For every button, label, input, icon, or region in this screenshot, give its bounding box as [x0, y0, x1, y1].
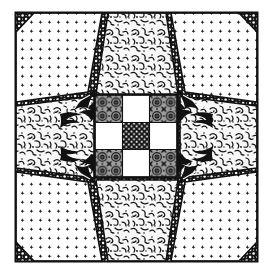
checker-cell-r0c0: [96, 96, 123, 123]
quilt-block-illustration: [0, 0, 270, 271]
artwork-canvas: Symmetric Quilt Block Pattern: [0, 0, 270, 271]
checker-cell-r0c1: [123, 96, 150, 123]
pentagon-bottom-left: [16, 172, 102, 261]
checker-cell-r1c0: [96, 123, 123, 150]
center-checkerboard: [95, 95, 177, 177]
checker-cell-r2c0: [96, 150, 123, 177]
trapezoid-left: [16, 96, 94, 178]
trapezoid-right: [180, 96, 257, 178]
trapezoid-bottom: [96, 180, 178, 261]
checker-cell-r2c2: [150, 150, 177, 177]
pentagon-bottom-right: [171, 172, 257, 261]
trapezoid-top: [96, 13, 178, 94]
pentagon-top-left: [16, 13, 102, 102]
checker-cell-r1c2: [150, 123, 177, 150]
checker-cell-r1c1: [123, 123, 150, 150]
pentagon-top-right: [171, 13, 257, 102]
checker-cell-r0c2: [150, 96, 177, 123]
checker-cell-r2c1: [123, 150, 150, 177]
